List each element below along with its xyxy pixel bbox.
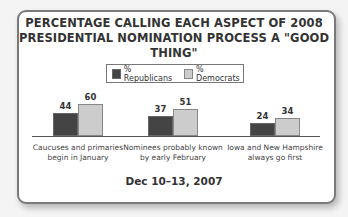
value-label-democrats-1: 60 [78, 92, 104, 102]
category-label-2: Nominees probably knownby early February [123, 143, 223, 163]
bar-democrats-3 [275, 118, 300, 136]
category-label-1: Caucuses and primariesbegin in January [28, 143, 128, 163]
value-label-republicans-2: 37 [148, 104, 174, 114]
value-label-republicans-3: 24 [250, 111, 276, 121]
value-label-republicans-1: 44 [53, 101, 79, 111]
bar-democrats-1 [78, 104, 103, 136]
value-label-democrats-2: 51 [173, 97, 199, 107]
bar-republicans-1 [53, 113, 78, 136]
bar-republicans-2 [148, 116, 173, 136]
chart-baseline [32, 136, 320, 137]
bar-democrats-2 [173, 109, 198, 136]
bar-republicans-3 [250, 123, 275, 136]
value-label-democrats-3: 34 [275, 106, 301, 116]
category-label-3: Iowa and New Hampshirealways go first [225, 143, 325, 163]
date-label: Dec 10–13, 2007 [0, 175, 348, 187]
